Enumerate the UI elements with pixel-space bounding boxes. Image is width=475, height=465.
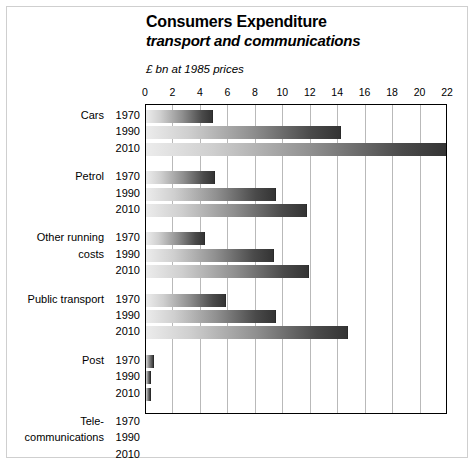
plot-wrapper: 0246810121416182022 197019902010Cars1970…: [0, 0, 475, 465]
year-label: 1970: [116, 109, 140, 122]
x-axis-tick-labels: 0246810121416182022: [145, 86, 447, 100]
year-label: 1970: [116, 231, 140, 244]
bar-row: [146, 355, 447, 368]
category-label: Petrol: [75, 170, 104, 183]
bar: [146, 371, 151, 384]
category-label: Other running: [37, 231, 104, 244]
category-label: Cars: [81, 109, 104, 122]
year-label: 2010: [116, 387, 140, 400]
bar: [146, 188, 276, 201]
year-label: 1970: [116, 170, 140, 183]
year-label: 1990: [116, 248, 140, 261]
x-tick-label: 12: [304, 86, 316, 98]
category-label: communications: [25, 431, 104, 444]
year-label: 2010: [116, 448, 140, 461]
bar-row: [146, 371, 447, 384]
x-tick-label: 2: [170, 86, 176, 98]
category-label: costs: [78, 248, 104, 261]
x-tick-label: 6: [224, 86, 230, 98]
plot-area: [145, 104, 447, 414]
bar: [146, 143, 447, 156]
x-tick-label: 4: [197, 86, 203, 98]
bar-row: [146, 265, 447, 278]
bar-row: [146, 388, 447, 401]
bar: [146, 232, 205, 245]
year-label: 1970: [116, 415, 140, 428]
x-tick-label: 20: [414, 86, 426, 98]
bar: [146, 265, 309, 278]
category-label: Public transport: [28, 293, 104, 306]
bar-row: [146, 249, 447, 262]
bar-row: [146, 326, 447, 339]
x-tick-label: 22: [441, 86, 453, 98]
bar-row: [146, 110, 447, 123]
chart-page: Consumers Expenditure transport and comm…: [0, 0, 475, 465]
x-tick-label: 8: [252, 86, 258, 98]
bar-row: [146, 204, 447, 217]
bar: [146, 204, 307, 217]
x-tick-label: 10: [276, 86, 288, 98]
bar-row: [146, 126, 447, 139]
x-tick-label: 0: [142, 86, 148, 98]
year-label: 2010: [116, 264, 140, 277]
bar: [146, 249, 274, 262]
x-tick-label: 18: [386, 86, 398, 98]
x-tick-label: 16: [359, 86, 371, 98]
bar: [146, 388, 151, 401]
bar: [146, 126, 341, 139]
bar-row: [146, 310, 447, 323]
bar: [146, 355, 154, 368]
bar-row: [146, 188, 447, 201]
year-label: 1990: [116, 431, 140, 444]
category-label: Post: [82, 354, 104, 367]
bar: [146, 310, 276, 323]
bar: [146, 110, 213, 123]
year-label: 1990: [116, 309, 140, 322]
bar-row: [146, 171, 447, 184]
bar-row: [146, 232, 447, 245]
category-and-year-labels: 197019902010Cars197019902010Petrol197019…: [0, 104, 145, 414]
bar: [146, 326, 348, 339]
year-label: 2010: [116, 203, 140, 216]
year-label: 1990: [116, 125, 140, 138]
bar: [146, 294, 226, 307]
bar: [146, 171, 215, 184]
bar-row: [146, 143, 447, 156]
year-label: 2010: [116, 142, 140, 155]
year-label: 2010: [116, 325, 140, 338]
bar-row: [146, 294, 447, 307]
bars-layer: [146, 105, 446, 413]
category-label: Tele-: [80, 415, 104, 428]
year-label: 1990: [116, 370, 140, 383]
x-tick-label: 14: [331, 86, 343, 98]
year-label: 1970: [116, 293, 140, 306]
year-label: 1970: [116, 354, 140, 367]
year-label: 1990: [116, 187, 140, 200]
